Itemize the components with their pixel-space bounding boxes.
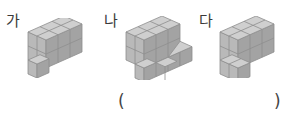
cube-stack-na	[122, 16, 202, 80]
cube-stack-ga-drawing	[24, 18, 90, 78]
answer-blank-open-paren: (	[118, 93, 125, 110]
answer-blank-close-paren: )	[274, 93, 281, 110]
figure-label-na: 나	[104, 14, 118, 29]
figure-label-ga: 가	[6, 14, 20, 29]
cube-stack-da-drawing	[216, 16, 284, 78]
cube-stack-ga	[24, 18, 90, 78]
cube-stack-da	[216, 16, 284, 78]
cube-stack-na-drawing	[122, 16, 202, 80]
figure-label-da: 다	[199, 14, 213, 29]
